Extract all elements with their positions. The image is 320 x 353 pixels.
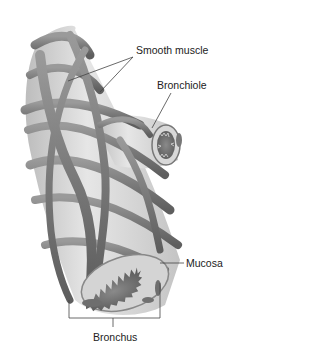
label-smooth-muscle: Smooth muscle [136,45,208,56]
label-bronchus: Bronchus [93,332,137,343]
label-mucosa: Mucosa [186,258,223,269]
smooth-muscle-leader-2 [100,57,133,92]
label-bronchiole: Bronchiole [157,80,207,91]
